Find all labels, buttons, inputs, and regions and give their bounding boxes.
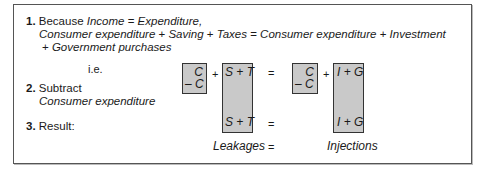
step-1-number: 1. [26,15,36,27]
equals-sign: = [268,141,274,153]
step-3-label: Result: [39,120,75,132]
step-3-number: 3. [26,120,36,132]
consumer-expenditure-term: Consumer expenditure [39,28,155,40]
step-1-line-3: + Government purchases [42,41,171,54]
investment-term: Investment [390,28,446,40]
equals-sign: = [268,67,274,79]
minus-c-label: – C [185,78,204,91]
injections-label: Injections [327,140,378,153]
plus-sign: + [204,28,217,40]
consumption-box-right: C – C [292,63,318,94]
step-1-line-1: 1. Because Income = Expenditure, [26,15,202,28]
saving-term: Saving [168,28,203,40]
equals-sign: = [124,15,137,27]
s-plus-t-label: S + T [225,116,254,129]
i-plus-g-label: I + G [337,66,363,79]
taxes-term: Taxes [217,28,247,40]
plus-sign: + [323,68,329,80]
step-1-lead: Because [39,15,87,27]
plus-sign: + [155,28,168,40]
consumer-expenditure-term: Consumer expenditure [260,28,376,40]
plus-sign: + [42,41,52,53]
step-2-label: Subtract [39,82,82,94]
equals-sign: = [247,28,260,40]
step-2-line-1: 2. Subtract [26,82,82,95]
ie-label: i.e. [88,63,103,76]
expenditure-term: Expenditure, [138,15,203,27]
equals-sign: = [268,118,274,130]
minus-c-label: – C [295,78,314,91]
step-3-line: 3. Result: [26,120,75,133]
leakages-label: Leakages [213,140,265,153]
injections-box: I + G I + G [333,63,364,133]
government-purchases-term: Government purchases [52,41,172,53]
plus-sign: + [376,28,389,40]
i-plus-g-label: I + G [337,116,363,129]
step-2-number: 2. [26,82,36,94]
s-plus-t-label: S + T [225,66,254,79]
income-term: Income [87,15,125,27]
leakages-box: S + T S + T [222,63,253,133]
step-2-sublabel: Consumer expenditure [39,95,155,108]
plus-sign: + [212,68,218,80]
step-1-line-2: Consumer expenditure + Saving + Taxes = … [39,28,446,41]
consumption-box-left: C – C [182,63,207,94]
